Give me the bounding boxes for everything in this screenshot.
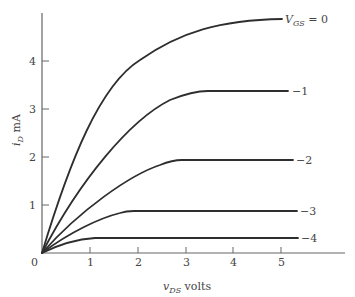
y-ticks — [42, 61, 49, 205]
x-tick-label: 1 — [87, 256, 94, 269]
y-axis-label: iD mA — [10, 113, 25, 146]
curve-label-minus-3: −3 — [300, 205, 316, 218]
x-tick-label: 4 — [230, 256, 237, 269]
x-tick-label: 2 — [135, 256, 142, 269]
curve-vgs-minus-2 — [42, 160, 293, 253]
curve-label-minus-2: −2 — [296, 154, 312, 167]
y-tick-label: 2 — [29, 151, 36, 164]
x-tick-label: 3 — [183, 256, 190, 269]
x-axis-label: vDS volts — [163, 280, 211, 295]
x-tick-label: 5 — [278, 256, 285, 269]
curve-label-vgs-0: VGS = 0 — [285, 13, 328, 28]
curve-label-minus-1: −1 — [292, 85, 308, 98]
y-tick-label: 4 — [29, 55, 36, 68]
x-ticks — [90, 247, 281, 253]
y-tick-label: 3 — [29, 103, 36, 116]
curve-vgs-minus-4 — [42, 238, 298, 253]
chart: 0 1 2 3 4 5 1 2 3 4 iD mA vDS volts VGS … — [0, 0, 355, 297]
curve-vgs-minus-3 — [42, 211, 297, 253]
y-tick-label: 1 — [29, 199, 36, 212]
origin-label: 0 — [31, 256, 38, 269]
curve-label-minus-4: −4 — [301, 232, 317, 245]
